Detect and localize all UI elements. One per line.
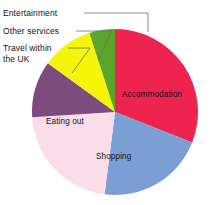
pie-chart: Entertainment Other services Travel with… [0,0,210,205]
slice-label-other-services: Other services [3,26,59,37]
slice-label-travel-within-the-uk: Travel withinthe UK [3,43,52,64]
slice-label-entertainment: Entertainment [3,8,57,19]
slice-label-accommodation: Accommodation [122,90,182,101]
slice-label-eating-out: Eating out [46,117,84,128]
slice-label-travel-line1: Travel within [3,43,52,53]
slice-label-shopping: Shopping [96,152,131,163]
slice-label-travel-line2: the UK [3,54,30,64]
